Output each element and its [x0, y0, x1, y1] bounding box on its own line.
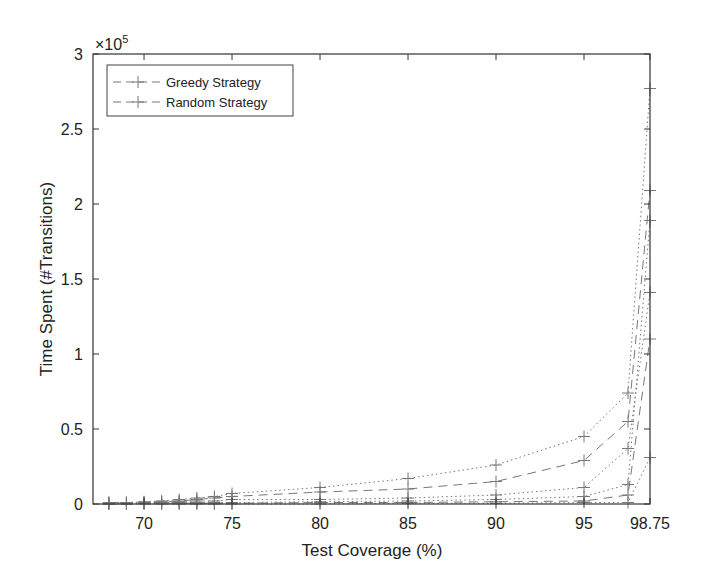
- plus-marker-icon: [622, 479, 634, 491]
- y-tick-label: 0.5: [61, 421, 83, 438]
- series-line: [109, 221, 650, 504]
- series-line: [109, 191, 650, 503]
- x-tick-label: 98.75: [630, 515, 670, 532]
- plus-marker-icon: [622, 443, 634, 455]
- series-line: [109, 339, 650, 504]
- x-tick-label: 85: [399, 515, 417, 532]
- series-layer: [103, 83, 656, 511]
- y-tick-label: 1: [74, 346, 83, 363]
- legend-label-random: Random Strategy: [166, 95, 268, 110]
- y-multiplier-label: ×105: [95, 33, 128, 53]
- plus-marker-icon: [402, 473, 414, 485]
- legend-label-greedy: Greedy Strategy: [166, 75, 261, 90]
- series: [103, 287, 656, 510]
- y-tick-labels: 00.511.522.53: [61, 46, 83, 513]
- y-tick-label: 2: [74, 196, 83, 213]
- series-line: [109, 89, 650, 503]
- plus-marker-icon: [622, 497, 634, 509]
- x-tick-label: 75: [223, 515, 241, 532]
- axis-ticks: [93, 54, 650, 504]
- y-tick-label: 1.5: [61, 271, 83, 288]
- legend: Greedy Strategy Random Strategy: [107, 65, 293, 116]
- y-tick-label: 0: [74, 496, 83, 513]
- plus-marker-icon: [490, 476, 502, 488]
- series-line: [109, 293, 650, 504]
- plus-marker-icon: [622, 387, 634, 399]
- line-chart: 70758085909598.75 00.511.522.53 ×105 Tes…: [0, 0, 702, 587]
- x-tick-label: 95: [575, 515, 593, 532]
- plus-marker-icon: [578, 431, 590, 443]
- plus-marker-icon: [490, 459, 502, 471]
- y-tick-label: 2.5: [61, 121, 83, 138]
- plot-area-frame: [93, 54, 650, 504]
- x-tick-label: 70: [135, 515, 153, 532]
- y-axis-title: Time Spent (#Transitions): [37, 182, 56, 376]
- x-tick-labels: 70758085909598.75: [135, 515, 670, 532]
- series: [103, 83, 656, 509]
- x-tick-label: 90: [487, 515, 505, 532]
- series: [103, 185, 656, 509]
- x-tick-label: 80: [311, 515, 329, 532]
- x-axis-title: Test Coverage (%): [302, 541, 443, 560]
- series: [103, 215, 656, 510]
- y-tick-label: 3: [74, 46, 83, 63]
- series: [103, 333, 656, 510]
